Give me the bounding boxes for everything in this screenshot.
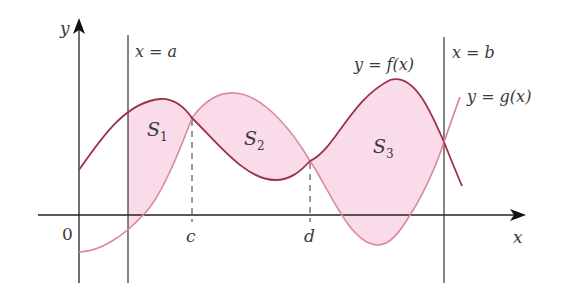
tick-label-d: d [304,226,315,246]
origin-label: 0 [62,224,73,244]
g-label-leader [444,97,460,142]
label-x-equals-b: x = b [452,43,495,62]
tick-label-c: c [186,226,196,246]
x-axis-label: x [513,227,523,247]
y-axis-label: y [59,18,70,38]
y-axis [73,18,85,283]
shaded-region [79,79,444,252]
label-g: y = g(x) [466,87,531,106]
x-axis [38,209,526,221]
label-f: y = f(x) [353,55,414,74]
area-between-curves-diagram: y x 0 c d x = a x = b y = f(x) y = g(x) … [0,0,564,302]
region-s1 [79,99,192,252]
label-x-equals-a: x = a [135,42,177,61]
region-s3 [310,79,444,245]
